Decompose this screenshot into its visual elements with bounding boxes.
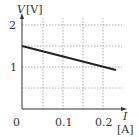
origin-label: 0 bbox=[13, 116, 20, 129]
x-axis-unit: [A] bbox=[117, 123, 134, 136]
y-tick-1: 1 bbox=[10, 61, 17, 74]
y-axis-symbol: V bbox=[17, 3, 26, 16]
y-tick-2: 2 bbox=[9, 19, 16, 32]
chart-canvas: V [V] 2 1 0 0.1 0.2 I [A] bbox=[0, 0, 139, 137]
grid bbox=[22, 18, 122, 109]
x-axis-symbol: I bbox=[122, 110, 128, 123]
axes bbox=[20, 13, 127, 111]
y-axis-unit: [V] bbox=[26, 3, 43, 16]
x-tick-0.2: 0.2 bbox=[95, 116, 113, 129]
data-line bbox=[22, 46, 116, 70]
x-tick-0.1: 0.1 bbox=[55, 116, 73, 129]
